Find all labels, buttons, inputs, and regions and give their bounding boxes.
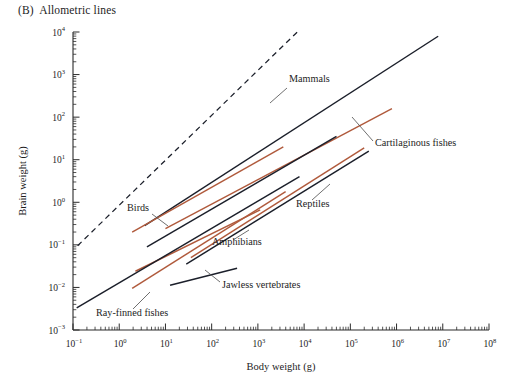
x-axis-tick-labels: 10−1100101102103104105106107108 xyxy=(66,337,497,349)
series-label-amphibians: Amphibians xyxy=(212,236,262,247)
chart-canvas: 10410310210110010−110−210−3 10−110010110… xyxy=(0,0,511,383)
allometric-lines-figure: (B) Allometric lines 10410310210110010−1… xyxy=(0,0,511,383)
y-axis-title: Brain weight (g) xyxy=(17,146,29,216)
x-tick-label: 104 xyxy=(299,337,313,349)
series-label-cartilaginous-fishes: Cartilaginous fishes xyxy=(375,137,456,148)
series-label-mammals: Mammals xyxy=(289,73,330,84)
x-tick-label: 10−1 xyxy=(66,337,83,349)
series-label-ray-finned-fishes: Ray-finned fishes xyxy=(96,307,168,318)
leader-line-mammals xyxy=(270,88,287,103)
series-annotation-labels: MammalsCartilaginous fishesBirdsReptiles… xyxy=(96,73,456,318)
x-axis-title: Body weight (g) xyxy=(247,361,316,373)
y-tick-label: 104 xyxy=(52,25,66,37)
x-tick-label: 102 xyxy=(206,337,219,349)
x-tick-label: 106 xyxy=(391,337,405,349)
y-tick-label: 10−3 xyxy=(48,323,65,335)
x-tick-label: 103 xyxy=(252,337,266,349)
series-label-reptiles: Reptiles xyxy=(296,198,329,209)
series-label-jawless-vertebrates: Jawless vertebrates xyxy=(222,279,300,290)
y-tick-label: 102 xyxy=(52,110,65,122)
x-tick-label: 101 xyxy=(160,337,173,349)
y-tick-label: 101 xyxy=(52,153,65,165)
x-tick-label: 105 xyxy=(345,337,359,349)
y-tick-label: 100 xyxy=(52,196,66,208)
x-tick-label: 108 xyxy=(484,337,498,349)
series-line-reference-dashed xyxy=(78,30,300,246)
x-axis-ticks xyxy=(73,324,489,331)
x-tick-label: 107 xyxy=(437,337,451,349)
series-lines-group xyxy=(77,30,438,308)
x-tick-label: 100 xyxy=(114,337,128,349)
series-line-mammals xyxy=(145,36,439,225)
annotation-leader-lines xyxy=(133,88,373,309)
series-label-birds: Birds xyxy=(127,202,149,213)
series-line-birds-red xyxy=(132,147,283,232)
y-axis-tick-labels: 10410310210110010−110−210−3 xyxy=(48,25,65,335)
y-tick-label: 103 xyxy=(52,68,66,80)
y-axis-ticks xyxy=(73,32,80,330)
y-tick-label: 10−2 xyxy=(48,281,65,293)
y-tick-label: 10−1 xyxy=(48,238,65,250)
